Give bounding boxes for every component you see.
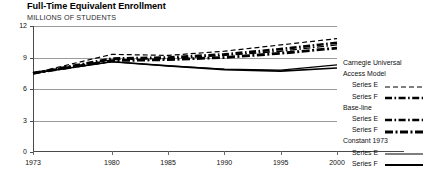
x-axis-tick-label: 1973 <box>13 159 53 166</box>
chart-title: Full-Time Equivalent Enrollment <box>27 1 166 11</box>
x-axis-tick-label: 1990 <box>204 159 244 166</box>
legend-item-label: Series F <box>352 124 378 135</box>
chart-subtitle: MILLIONS OF STUDENTS <box>27 13 116 22</box>
legend-item-label: Series E <box>352 79 378 90</box>
legend-item[interactable]: Series E <box>343 113 424 124</box>
y-axis-tick-label: 9 <box>7 54 27 61</box>
legend-group-title: Carnegie Universal <box>343 57 424 68</box>
x-axis-tick-label: 1995 <box>261 159 301 166</box>
x-axis-tick <box>281 151 282 155</box>
x-axis-tick <box>224 151 225 155</box>
legend-item-label: Series E <box>352 147 378 158</box>
chart-figure: Full-Time Equivalent Enrollment MILLIONS… <box>0 0 424 177</box>
legend-line-swatch <box>385 162 423 169</box>
y-axis-tick-label: 3 <box>7 117 27 124</box>
y-axis-tick-label: 0 <box>7 148 27 155</box>
series-lines <box>33 26 337 152</box>
x-axis-tick <box>112 151 113 155</box>
legend-item[interactable]: Series F <box>343 124 424 135</box>
x-axis-tick-label: 1980 <box>92 159 132 166</box>
legend-group-title: Base-line <box>343 102 424 113</box>
chart-legend: Carnegie UniversalAccess ModelSeries ESe… <box>343 57 424 169</box>
plot-area <box>33 26 337 152</box>
y-axis-tick-label: 12 <box>7 22 27 29</box>
legend-item[interactable]: Series F <box>343 158 424 169</box>
y-axis-tick-label: 6 <box>7 85 27 92</box>
legend-item-label: Series F <box>352 158 378 169</box>
legend-item[interactable]: Series F <box>343 91 424 102</box>
x-axis-tick <box>33 151 34 155</box>
x-axis-tick <box>337 151 338 155</box>
legend-item[interactable]: Series E <box>343 147 424 158</box>
legend-item-label: Series E <box>352 113 378 124</box>
legend-item-label: Series F <box>352 91 378 102</box>
legend-group-title: Constant 1973 <box>343 135 424 146</box>
legend-item[interactable]: Series E <box>343 79 424 90</box>
legend-group-title: Access Model <box>343 68 424 79</box>
x-axis-tick <box>168 151 169 155</box>
x-axis-tick-label: 1985 <box>148 159 188 166</box>
